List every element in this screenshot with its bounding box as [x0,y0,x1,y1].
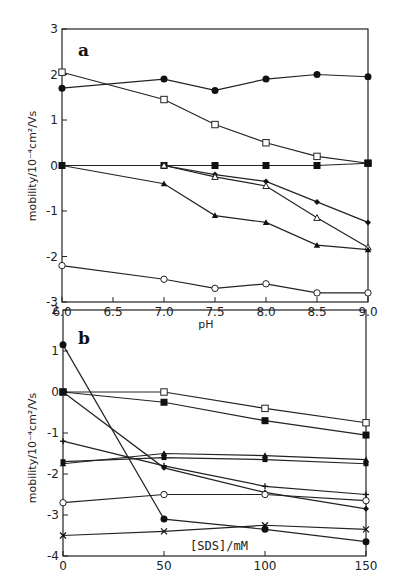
x-tick-label: 9.0 [358,305,377,319]
y-tick-label: 0 [50,159,58,173]
plus-marker-icon [262,483,268,489]
open-square-marker-icon [263,140,269,146]
x-tick-label: 7.5 [205,305,224,319]
filled-circle-marker-icon [365,73,372,80]
filled-square-marker-icon [365,160,372,167]
filled-small-marker-icon [61,459,66,464]
open-circle-marker-icon [263,281,269,287]
open-square-marker-icon [262,405,268,411]
x-tick-label: 0 [59,559,67,573]
filled-circle-marker-icon [60,341,67,348]
plus-marker-icon [363,492,369,498]
plus-marker-icon [60,438,66,444]
filled-circle-marker-icon [363,538,370,545]
x-tick-label: 150 [355,559,378,573]
open-square-marker-icon [161,96,167,102]
open-circle-marker-icon [59,262,65,268]
filled-circle-marker-icon [161,516,168,523]
filled-small-marker-icon [263,457,268,462]
panel-a-ylabel: mobility/10⁻⁴cm²/Vs [26,111,39,222]
filled-small-marker-icon [364,461,369,466]
panel-b-letter: b [78,328,90,348]
filled-circle-marker-icon [212,87,219,94]
y-tick-label: -4 [47,549,59,563]
y-tick-label: -1 [47,426,59,440]
open-square-marker-icon [161,389,167,395]
open-circle-marker-icon [262,491,268,497]
open-circle-marker-icon [161,276,167,282]
open-circle-marker-icon [161,491,167,497]
series-line [63,458,366,464]
x-tick-label: 50 [156,559,171,573]
series-line [164,166,368,248]
y-tick-label: -2 [47,467,59,481]
open-circle-marker-icon [60,500,66,506]
filled-square-marker-icon [161,399,168,406]
open-square-marker-icon [363,420,369,426]
panel-a-xlabel: pH [198,318,213,331]
open-square-marker-icon [314,153,320,159]
y-tick-label: 0 [51,385,59,399]
open-circle-marker-icon [314,290,320,296]
series-line [63,525,366,535]
panel-b-ylabel: mobility/10⁻⁴cm²/Vs [26,393,39,504]
y-tick-label: -1 [46,204,58,218]
filled-circle-marker-icon [59,85,66,92]
series-line [63,345,366,542]
plot-frame [63,310,366,556]
panel-a-plot: 3210-1-2-36.06.57.07.58.08.59.0 [46,22,378,319]
y-tick-label: 1 [51,344,59,358]
y-tick-label: 2 [51,303,59,317]
x-tick-label: 7.0 [154,305,173,319]
open-square-marker-icon [59,69,65,75]
filled-square-marker-icon [262,417,269,424]
panel-b-xlabel: [SDS]/mM [190,539,248,553]
figure: 3210-1-2-36.06.57.07.58.08.59.0 210-1-2-… [0,0,398,586]
filled-square-marker-icon [263,162,270,169]
open-square-marker-icon [212,121,218,127]
filled-square-marker-icon [212,162,219,169]
panel-b-plot: 210-1-2-3-4050100150 [47,303,377,573]
filled-small-marker-icon [162,455,167,460]
series-line [62,72,368,163]
panel-a-letter: a [78,40,89,60]
series-line [63,392,366,435]
filled-triangle-marker-icon [212,212,218,218]
y-tick-label: 1 [50,113,58,127]
filled-circle-marker-icon [161,76,168,83]
filled-square-marker-icon [314,162,321,169]
open-circle-marker-icon [365,290,371,296]
open-circle-marker-icon [363,497,369,503]
filled-diamond-marker-icon [314,199,320,205]
y-tick-label: -3 [47,508,59,522]
filled-diamond-marker-icon [365,219,371,225]
filled-circle-marker-icon [263,76,270,83]
x-tick-label: 100 [254,559,277,573]
x-tick-label: 6.5 [103,305,122,319]
y-tick-label: 3 [50,22,58,36]
open-triangle-marker-icon [314,215,320,221]
open-circle-marker-icon [212,285,218,291]
x-tick-label: 8.5 [307,305,326,319]
filled-diamond-marker-icon [363,506,369,512]
x-tick-label: 8.0 [256,305,275,319]
y-tick-label: -2 [46,250,58,264]
filled-square-marker-icon [363,432,370,439]
y-tick-label: 2 [50,68,58,82]
series-line [63,441,366,494]
filled-circle-marker-icon [314,71,321,78]
